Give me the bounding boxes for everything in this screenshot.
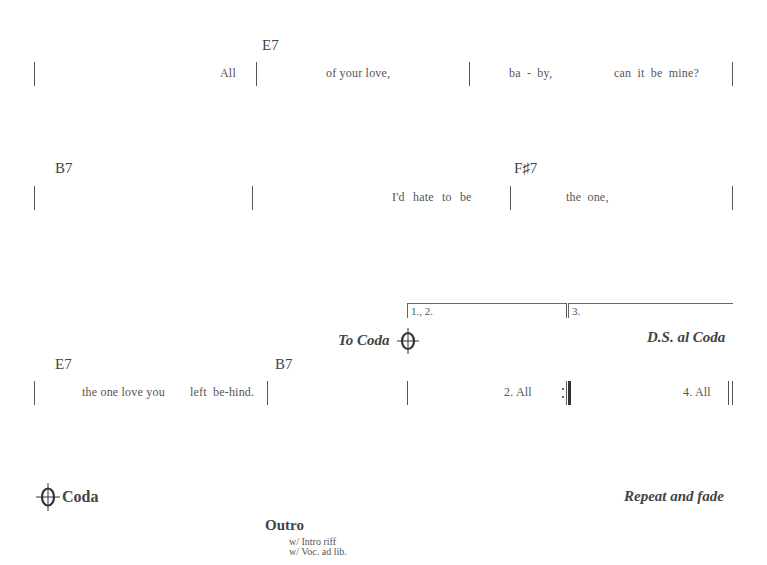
barline: [34, 62, 35, 86]
section-title: Outro: [265, 517, 304, 534]
chord-b7: B7: [55, 160, 73, 177]
lyric: of your love,: [326, 66, 390, 81]
lyric: I'd hate to be: [392, 190, 472, 205]
coda-label: Coda: [62, 488, 98, 506]
barline: [252, 186, 253, 210]
repeat-barline-thin: [566, 381, 567, 405]
repeat-barline-thick: [568, 381, 571, 405]
lyric: can it be mine?: [614, 66, 699, 81]
chord-b7: B7: [275, 356, 293, 373]
barline: [34, 186, 35, 210]
ds-al-coda-label: D.S. al Coda: [647, 329, 725, 346]
lyric: the one,: [566, 190, 609, 205]
ending-divider: [566, 303, 567, 318]
lyric: ba - by,: [509, 66, 552, 81]
coda-icon: [35, 482, 61, 512]
double-barline: [728, 381, 729, 405]
chord-fsharp7: F♯7: [514, 160, 537, 177]
lyric: All: [220, 66, 236, 81]
repeat-dot: [562, 388, 564, 390]
lyric: the one love you: [82, 385, 165, 400]
lyric: left be-hind.: [190, 385, 254, 400]
first-ending-bracket: 1., 2.: [407, 303, 566, 318]
lyric: 2. All: [504, 385, 532, 400]
ending-label: 3.: [572, 305, 580, 317]
performance-note: w/ Voc. ad lib.: [289, 546, 347, 557]
barline: [469, 62, 470, 86]
repeat-and-fade-label: Repeat and fade: [624, 488, 724, 505]
repeat-dot: [562, 396, 564, 398]
barline: [732, 186, 733, 210]
barline: [732, 62, 733, 86]
barline: [267, 381, 268, 405]
barline: [510, 186, 511, 210]
lyric: 4. All: [683, 385, 711, 400]
to-coda-label: To Coda: [338, 332, 390, 349]
chord-e7: E7: [55, 356, 72, 373]
barline: [256, 62, 257, 86]
second-ending-bracket: 3.: [568, 303, 733, 318]
ending-label: 1., 2.: [411, 305, 433, 317]
barline: [34, 381, 35, 405]
double-barline: [732, 381, 733, 405]
chord-e7: E7: [262, 37, 279, 54]
barline: [407, 381, 408, 405]
coda-icon: [396, 327, 420, 355]
